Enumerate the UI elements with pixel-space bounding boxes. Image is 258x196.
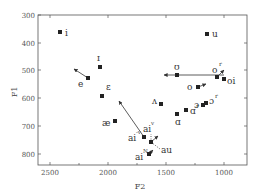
- point-upsilon: [175, 73, 179, 77]
- point-ai-minus-v: [142, 135, 146, 139]
- x-axis-label: F2: [135, 182, 146, 191]
- y-tick-800: 800: [22, 151, 35, 159]
- y-tick-700: 700: [22, 123, 35, 131]
- label-or-sup: r: [219, 60, 222, 67]
- point-wedge: [159, 102, 163, 106]
- x-tick-2500: 2500: [41, 169, 59, 177]
- label-eps: ɛ: [106, 82, 111, 92]
- point-alpha: [175, 112, 179, 116]
- point-or: [215, 75, 219, 79]
- label-wedge: ʌ: [151, 96, 158, 106]
- x-tick-1000: 1000: [215, 169, 233, 177]
- point-eps: [100, 94, 104, 98]
- label-oi: oi: [227, 76, 235, 86]
- label-alpha-r-sup: r: [196, 102, 199, 109]
- point-ae: [113, 119, 117, 123]
- data-points: [58, 30, 226, 156]
- label-ai-v-sup: v: [150, 120, 155, 126]
- x-tick-2000: 2000: [99, 169, 117, 177]
- label-or: o: [212, 65, 217, 75]
- point-alpha-r: [184, 108, 188, 112]
- point-o: [196, 85, 200, 89]
- label-o: o: [187, 82, 192, 92]
- label-ai-n-sup: N: [143, 148, 148, 154]
- point-I: [98, 65, 102, 69]
- point-u: [205, 32, 209, 36]
- label-alpha: ɑ: [175, 117, 181, 127]
- arrow-e: [74, 69, 88, 78]
- y-tick-600: 600: [22, 95, 35, 103]
- point-i: [58, 30, 62, 34]
- y-axis-label: F1: [10, 87, 19, 98]
- label-u: u: [212, 29, 218, 39]
- y-tick-300: 300: [22, 12, 35, 20]
- label-au: au: [161, 145, 172, 155]
- label-i: i: [65, 28, 68, 38]
- point-ai-v: [149, 140, 153, 144]
- label-openo-r: ɔ: [209, 96, 214, 106]
- point-oi: [222, 77, 226, 81]
- label-ae: æ: [102, 118, 110, 128]
- y-tick-500: 500: [22, 67, 35, 75]
- label-e: e: [78, 79, 83, 89]
- label-I: ɪ: [97, 53, 100, 63]
- point-openo-r: [204, 101, 208, 105]
- y-tick-400: 400: [22, 40, 35, 48]
- x-tick-1500: 1500: [157, 169, 175, 177]
- point-e: [86, 76, 90, 80]
- label-openo-r-sup: r: [215, 92, 218, 99]
- formant-chart: 300 400 500 600 700 800 F1 2500 2000 150…: [0, 0, 258, 196]
- label-upsilon: ʊ: [174, 62, 180, 72]
